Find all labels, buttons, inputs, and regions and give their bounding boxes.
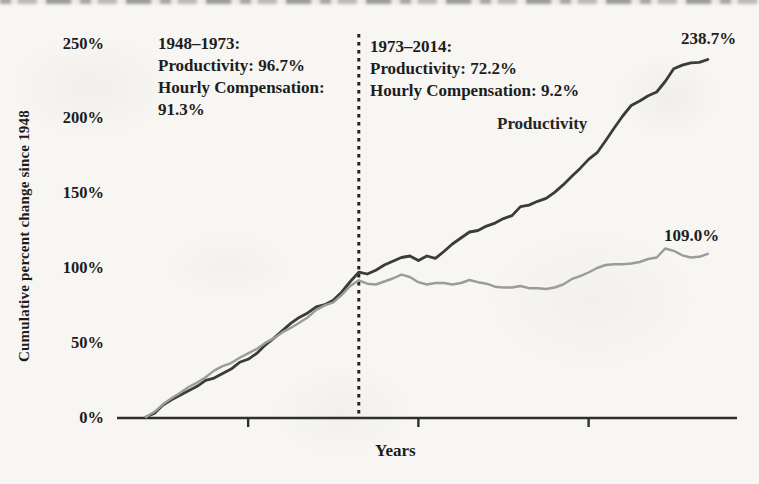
productivity-end-value-label: 238.7% — [681, 29, 736, 49]
y-tick-label-0: 0% — [79, 408, 104, 427]
annotation-1973-2014-line1: 1973–2014: — [370, 36, 579, 58]
compensation-end-value-label: 109.0% — [664, 226, 719, 246]
y-tick-label-150: 150% — [63, 183, 104, 202]
annotation-1948-1973: 1948–1973: Productivity: 96.7% Hourly Co… — [158, 33, 325, 121]
y-axis-title: Cumulative percent change since 1948 — [16, 34, 36, 438]
y-tick-label-200: 200% — [63, 108, 104, 127]
annotation-1948-1973-line2: Productivity: 96.7% — [158, 55, 325, 77]
y-tick-label-250: 250% — [63, 34, 104, 53]
annotation-1948-1973-line4: 91.3% — [158, 99, 325, 121]
annotation-1973-2014-line3: Hourly Compensation: 9.2% — [370, 80, 579, 102]
annotation-1973-2014: 1973–2014: Productivity: 72.2% Hourly Co… — [370, 36, 579, 102]
y-tick-label-50: 50% — [71, 333, 104, 352]
y-tick-label-100: 100% — [63, 258, 104, 277]
annotation-1948-1973-line3: Hourly Compensation: — [158, 77, 325, 99]
x-axis-title: Years — [375, 441, 416, 461]
annotation-1948-1973-line1: 1948–1973: — [158, 33, 325, 55]
annotation-1973-2014-line2: Productivity: 72.2% — [370, 58, 579, 80]
productivity-series-label: Productivity — [497, 114, 587, 134]
hourly-compensation-line — [146, 249, 708, 418]
